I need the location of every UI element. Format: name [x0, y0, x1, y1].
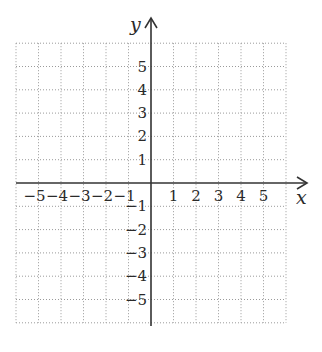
y-tick-label: 1 — [137, 151, 147, 169]
y-tick-label: −2 — [125, 221, 147, 239]
y-tick-label: 3 — [137, 104, 147, 122]
y-tick-label: −4 — [125, 267, 147, 285]
y-tick-label: 4 — [137, 81, 147, 99]
y-tick-label: 2 — [137, 127, 147, 145]
x-tick-label: −5 — [23, 187, 45, 205]
y-tick-label: −5 — [125, 291, 147, 309]
x-tick-label: 3 — [214, 187, 224, 205]
x-axis-label: x — [296, 186, 307, 208]
y-tick-label: −1 — [125, 197, 147, 215]
y-tick-label: 5 — [137, 58, 147, 76]
x-tick-label: −4 — [46, 187, 68, 205]
x-tick-label: 4 — [236, 187, 246, 205]
x-tick-label: −2 — [91, 187, 113, 205]
x-tick-label: 5 — [259, 187, 269, 205]
x-tick-label: 1 — [169, 187, 179, 205]
x-tick-label: −3 — [68, 187, 90, 205]
y-axis-label: y — [129, 13, 141, 35]
coordinate-plane: x y −5−4−3−2−11234554321−1−2−3−4−5 — [0, 0, 322, 352]
x-tick-label: 2 — [191, 187, 201, 205]
y-tick-label: −3 — [125, 244, 147, 262]
